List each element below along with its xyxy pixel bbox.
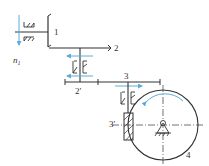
shaft-3 xyxy=(121,82,135,113)
input-shaft-1 xyxy=(15,22,48,41)
gear-3 xyxy=(98,79,160,85)
label-gear-1: 1 xyxy=(54,27,59,37)
label-n1: n1 xyxy=(13,55,21,66)
gear-train-diagram: 1 2 2′ 3 3′ 4 n1 xyxy=(0,0,209,166)
intermediate-shaft xyxy=(73,48,87,82)
gear-2-prime xyxy=(65,79,98,85)
label-gear-3: 3 xyxy=(124,71,129,81)
bevel-gear-1 xyxy=(48,14,51,47)
label-gear-2: 2 xyxy=(114,43,119,53)
label-wheel-4: 4 xyxy=(186,150,191,160)
label-gear-2-prime: 2′ xyxy=(75,86,82,96)
label-worm-3-prime: 3′ xyxy=(109,119,116,129)
